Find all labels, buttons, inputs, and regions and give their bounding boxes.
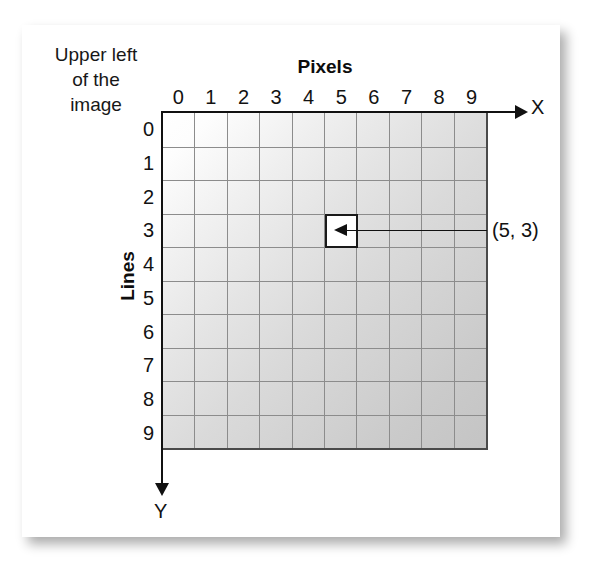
y-axis-arrow-icon (155, 483, 169, 496)
x-axis-line (162, 111, 517, 113)
column-tick-label-1: 1 (195, 84, 228, 110)
grid-hline-4 (162, 247, 486, 248)
row-tick-label-8: 8 (122, 383, 154, 417)
grid-hline-3 (162, 214, 486, 215)
column-tick-label-7: 7 (390, 84, 423, 110)
y-axis-line (161, 111, 163, 485)
column-tick-label-9: 9 (455, 84, 488, 110)
upper-left-caption: Upper leftof theimage (30, 42, 162, 117)
grid-hline-7 (162, 348, 486, 349)
column-tick-label-3: 3 (260, 84, 293, 110)
row-tick-label-4: 4 (122, 248, 154, 282)
x-axis-arrow-icon (515, 105, 528, 119)
grid-hline-6 (162, 314, 486, 315)
row-tick-label-5: 5 (122, 282, 154, 316)
column-tick-label-5: 5 (325, 84, 358, 110)
row-tick-label-9: 9 (122, 416, 154, 450)
column-tick-label-8: 8 (423, 84, 456, 110)
grid-hline-9 (162, 415, 486, 416)
row-tick-label-3: 3 (122, 214, 154, 248)
row-tick-labels: 0123456789 (122, 113, 154, 450)
column-tick-label-2: 2 (227, 84, 260, 110)
callout-coordinate-label: (5, 3) (492, 219, 539, 242)
upper-left-caption-line-1: Upper left (30, 42, 162, 67)
x-axis-label: X (531, 96, 544, 119)
pixel-grid (162, 113, 488, 450)
column-tick-label-6: 6 (358, 84, 391, 110)
grid-hline-5 (162, 281, 486, 282)
column-tick-label-4: 4 (292, 84, 325, 110)
row-tick-label-1: 1 (122, 147, 154, 181)
upper-left-caption-line-2: of the (30, 67, 162, 92)
column-tick-labels: 0123456789 (162, 84, 488, 110)
column-tick-label-0: 0 (162, 84, 195, 110)
pixels-axis-title: Pixels (162, 56, 488, 78)
y-axis-label: Y (154, 500, 167, 523)
row-tick-label-7: 7 (122, 349, 154, 383)
grid-hline-2 (162, 180, 486, 181)
row-tick-label-0: 0 (122, 113, 154, 147)
row-tick-label-6: 6 (122, 315, 154, 349)
callout-leader-line (345, 230, 487, 231)
callout-arrow-icon (334, 224, 347, 236)
figure-root: Upper leftof theimage Pixels Lines 01234… (0, 0, 589, 564)
grid-lines (162, 113, 486, 448)
grid-hline-8 (162, 381, 486, 382)
grid-hline-1 (162, 147, 486, 148)
row-tick-label-2: 2 (122, 180, 154, 214)
